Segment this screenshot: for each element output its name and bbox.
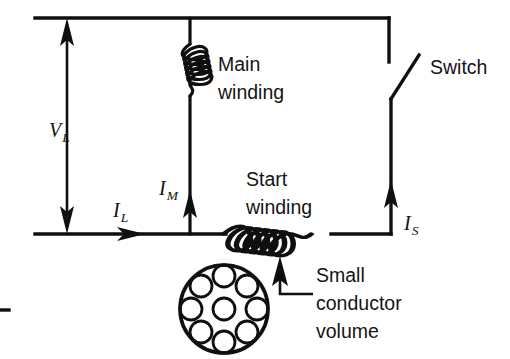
main-winding-current-symbol: IM: [158, 177, 179, 203]
start-winding-label-line1: Start: [246, 168, 288, 190]
switch-blade[interactable]: [391, 55, 419, 99]
switch-label: Switch: [430, 56, 487, 78]
small-conductor-label-line2: conductor: [316, 292, 402, 314]
small-conductor-label-line1: Small: [316, 264, 365, 286]
main-winding-coil: [182, 44, 212, 96]
main-winding-label-line2: winding: [217, 81, 284, 103]
conductor-strand-n: [213, 265, 235, 287]
circuit-diagram: Single-phase motor start/main winding ci…: [0, 0, 510, 359]
conductor-strand-sw: [190, 321, 212, 343]
start-winding-current-symbol: IS: [403, 212, 419, 238]
conductor-strand-w: [180, 298, 202, 320]
start-winding-coil: [224, 226, 312, 256]
conductor-strand-center: [213, 298, 235, 320]
small-conductor-label-line3: volume: [316, 320, 379, 342]
conductor-strand-nw: [190, 275, 212, 297]
conductor-strand-e: [246, 298, 268, 320]
conductor-strand-se: [236, 321, 258, 343]
main-winding-label-line1: Main: [218, 53, 260, 75]
start-winding-label-line2: winding: [245, 196, 312, 218]
circuit-schematic-canvas: Single-phase motor start/main winding ci…: [0, 0, 510, 359]
line-current-symbol: IL: [112, 199, 128, 225]
conductor-strand-ne: [236, 275, 258, 297]
conductor-strand-s: [213, 331, 235, 353]
